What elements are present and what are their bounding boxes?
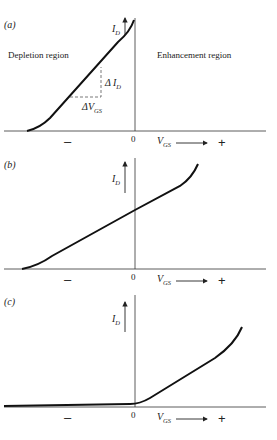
minus-label: –	[64, 272, 72, 287]
panel-c-label: (c)	[4, 296, 16, 308]
x-axis-label: VGS	[157, 411, 172, 424]
x-axis-label: VGS	[157, 135, 172, 148]
transfer-curve	[4, 327, 242, 406]
x-axis-label: VGS	[157, 273, 172, 286]
panel-b-label: (b)	[4, 159, 16, 171]
plus-label: +	[218, 273, 226, 288]
minus-label: –	[64, 410, 72, 425]
y-axis-label: ID	[111, 313, 120, 326]
origin-label: 0	[131, 272, 136, 282]
minus-label: –	[64, 134, 72, 149]
panel-a-label: (a)	[4, 19, 16, 31]
delta-id-label: ΔID	[104, 77, 121, 90]
plus-label: +	[218, 135, 226, 150]
panel-b: (b) ID 0 – VGS +	[4, 158, 266, 288]
transfer-curve	[22, 164, 198, 269]
transfer-curve	[27, 20, 134, 131]
plus-label: +	[218, 411, 226, 426]
y-axis-label: ID	[111, 173, 120, 186]
panel-a: (a) ID Depletion region Enhancement regi…	[4, 18, 266, 150]
origin-label: 0	[131, 410, 136, 420]
slope-triangle	[70, 67, 101, 97]
delta-vgs-label: ΔVGS	[81, 101, 103, 114]
enhancement-label: Enhancement region	[157, 50, 232, 60]
panel-c: (c) ID 0 – VGS +	[4, 295, 266, 426]
depletion-label: Depletion region	[8, 50, 69, 60]
y-axis-label: ID	[111, 23, 120, 36]
origin-label: 0	[131, 134, 136, 144]
mosfet-transfer-characteristics: (a) ID Depletion region Enhancement regi…	[0, 0, 277, 440]
